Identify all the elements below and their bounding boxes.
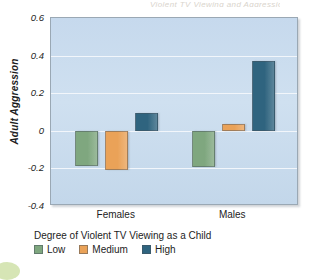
x-category-label-females: Females (97, 209, 135, 220)
bar-males-high (252, 61, 275, 131)
y-axis-tick-labels: 0.60.40.20-0.2-0.4 (10, 17, 48, 205)
page-corner-decoration (0, 262, 20, 280)
x-category-label-males: Males (219, 209, 246, 220)
legend-label: Medium (92, 244, 128, 255)
bar-females-medium (105, 131, 128, 170)
legend-item-high: High (142, 244, 176, 255)
legend-item-low: Low (34, 244, 65, 255)
cropped-title-remnant: Violent TV Viewing and Aggression (150, 0, 280, 7)
y-tick-label: 0 (10, 124, 48, 135)
legend-items: LowMediumHigh (34, 244, 299, 255)
legend-label: Low (47, 244, 65, 255)
y-tick-label: 0.6 (10, 12, 48, 23)
y-tick-label: -0.2 (10, 162, 48, 173)
gridline (51, 168, 297, 169)
y-tick-label: -0.4 (10, 200, 48, 211)
bar-females-high (135, 113, 158, 131)
legend-title: Degree of Violent TV Viewing as a Child (34, 230, 299, 241)
y-tick-label: 0.4 (10, 49, 48, 60)
bar-males-medium (222, 124, 245, 131)
bar-females-low (75, 131, 98, 166)
y-tick-label: 0.2 (10, 87, 48, 98)
chart-legend: Degree of Violent TV Viewing as a Child … (34, 230, 299, 255)
plot-area (50, 17, 298, 205)
gridline (51, 56, 297, 57)
bar-males-low (192, 131, 215, 168)
legend-swatch-icon (34, 245, 43, 254)
legend-swatch-icon (79, 245, 88, 254)
legend-label: High (155, 244, 176, 255)
legend-item-medium: Medium (79, 244, 128, 255)
legend-swatch-icon (142, 245, 151, 254)
